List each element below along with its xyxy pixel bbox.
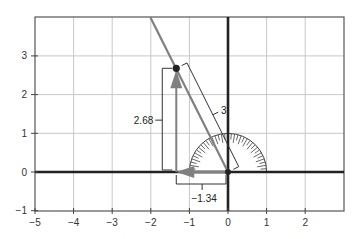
protractor-tick [233, 134, 235, 143]
protractor-tick [247, 140, 250, 145]
y-tick-label: 0 [21, 167, 27, 178]
protractor-tick [236, 135, 238, 141]
protractor-tick [201, 145, 205, 149]
radius-label: 3 [221, 105, 227, 116]
y-tick-label: −1 [16, 205, 28, 216]
coordinate-plane: −5−4−3−2−1012−10123 3 2.68 −1.34 [0, 0, 360, 239]
origin-marker [225, 169, 231, 175]
protractor-tick [190, 165, 199, 167]
protractor-tick [259, 162, 265, 164]
protractor-tick [238, 136, 241, 144]
y-bracket [162, 68, 172, 170]
protractor-tick [256, 159, 264, 162]
protractor-tick [206, 140, 209, 145]
y-tick-label: 3 [21, 50, 27, 61]
protractor-tick [231, 134, 232, 140]
grid-lines [35, 17, 344, 211]
protractor-tick [193, 156, 198, 159]
radius-bracket-pointer [213, 112, 218, 115]
x-bracket [176, 175, 226, 184]
protractor-tick [258, 156, 263, 159]
x-tick-label: 1 [264, 217, 270, 228]
protractor-tick [196, 150, 201, 153]
x-component-label: −1.34 [191, 193, 217, 204]
protractor-tick [251, 145, 255, 149]
x-tick-label: 0 [225, 217, 231, 228]
protractor-tick [191, 162, 197, 164]
annotation-labels: 3 2.68 −1.34 [134, 105, 227, 204]
protractor-tick [242, 137, 245, 142]
x-tick-label: 2 [302, 217, 308, 228]
x-tick-label: −4 [68, 217, 80, 228]
y-component-label: 2.68 [134, 115, 154, 126]
x-tick-label: −5 [29, 217, 41, 228]
y-tick-label: 2 [21, 89, 27, 100]
arrow-left-icon [176, 166, 194, 178]
protractor-tick [192, 159, 200, 162]
protractor-tick [255, 150, 260, 153]
x-tick-label: −3 [106, 217, 118, 228]
protractor-tick [215, 136, 218, 144]
x-tick-label: −1 [184, 217, 196, 228]
protractor-tick [218, 135, 220, 141]
protractor-tick [260, 169, 266, 170]
protractor-tick [257, 165, 266, 167]
y-tick-label: 1 [21, 128, 27, 139]
point-marker [173, 65, 180, 72]
x-tick-label: −2 [145, 217, 157, 228]
radius-bracket [182, 63, 239, 169]
